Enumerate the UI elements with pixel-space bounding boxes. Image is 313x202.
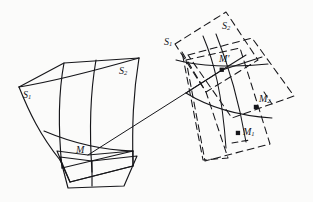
point-markers-group (220, 68, 259, 136)
right-surface-group (175, 12, 294, 161)
label-right-s2: S2 (222, 21, 230, 32)
right-short-segment-2 (186, 70, 222, 93)
label-left-s1: S1 (23, 90, 31, 101)
point-marker-m-prime (220, 68, 224, 72)
label-left-m: M (76, 145, 84, 155)
right-tick-m1 (232, 140, 250, 143)
left-surface-group (19, 58, 139, 188)
label-right-m1: M1 (243, 127, 255, 138)
figure-root: S1 S2 M S1 S2 M' M2 M1 (0, 0, 313, 202)
label-right-m2: M2 (259, 94, 271, 105)
left-transverse-2 (44, 131, 133, 151)
label-right-s1: S1 (164, 37, 172, 48)
left-tangent-quad-2 (60, 156, 137, 188)
label-right-m-prime: M' (219, 54, 229, 64)
point-marker-m1 (236, 131, 240, 135)
left-right-edge (133, 58, 139, 166)
label-left-s2: S2 (119, 66, 127, 77)
point-marker-m2 (254, 105, 258, 109)
